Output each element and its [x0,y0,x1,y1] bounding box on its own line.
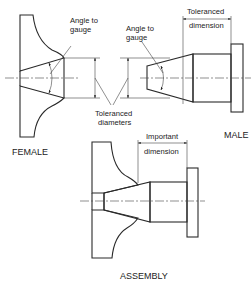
assembly-part [80,140,205,258]
toleranced-diameters-label-line1: Toleranced [95,109,132,118]
toleranced-dimension-label-line1: Toleranced [187,7,224,16]
assembly-female-upper [92,142,138,193]
assembly-view-label: ASSEMBLY [120,271,168,281]
toleranced-dimension-label-line2: dimension [189,21,224,30]
important-dimension-label-line1: Important [146,132,179,141]
male-angle-label-line1: Angle to [126,24,154,33]
female-angle-label-line1: Angle to [70,16,98,25]
female-upper-section [20,15,64,71]
toleranced-diameters-leaders [95,78,128,105]
taper-fit-diagram: Angle to gauge Toleranced diameters Angl… [0,0,251,282]
important-dimension-label-line2: dimension [144,147,179,156]
male-angle-label-line2: gauge [126,33,147,42]
female-angle-label-line2: gauge [70,25,91,34]
female-view-label: FEMALE [12,147,48,157]
female-lower-section [20,86,64,137]
toleranced-diameters-label-line2: diameters [98,118,132,127]
male-view-label: MALE [224,130,249,140]
